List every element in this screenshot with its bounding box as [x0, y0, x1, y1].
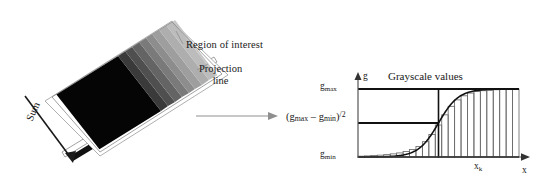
histogram-bar	[448, 106, 454, 157]
histogram-bar	[480, 91, 486, 157]
histogram-bar	[461, 96, 467, 157]
histogram-bar	[467, 93, 473, 157]
xk-subscript: k	[479, 165, 483, 173]
grayscale-values-chart: Grayscale values g x gmax gmin xk (gmax …	[268, 0, 538, 189]
projection-line-label: Projection line	[199, 63, 242, 86]
gmax-tick-label: gmax	[320, 81, 337, 93]
roi-svg	[0, 0, 270, 189]
histogram-bar	[487, 90, 493, 157]
projection-line-label-line1: Projection	[199, 63, 242, 75]
projection-line-label-line2: line	[199, 75, 242, 87]
region-of-interest-diagram: Region of interest Projection line Sum	[0, 0, 270, 189]
histogram-bar	[493, 90, 499, 157]
histogram-bar	[455, 100, 461, 157]
formula-open: (g	[286, 111, 295, 122]
y-axis	[355, 72, 362, 158]
formula-minus: – g	[308, 111, 324, 122]
formula-sub-max: max	[295, 114, 308, 123]
gmax-subscript: max	[325, 85, 337, 93]
xk-tick-label: xk	[474, 161, 482, 173]
histogram-bar	[513, 89, 519, 157]
gmin-tick-label: gmin	[320, 149, 336, 161]
figure-canvas: Region of interest Projection line Sum	[0, 0, 538, 189]
gmin-subscript: min	[325, 153, 336, 161]
formula-divisor: /2	[339, 110, 345, 119]
histogram-bar	[500, 89, 506, 157]
chart-svg	[268, 0, 538, 189]
histogram-bar	[506, 89, 512, 157]
region-of-interest-label: Region of interest	[186, 39, 263, 50]
chart-title: Grayscale values	[388, 70, 463, 82]
y-axis-label: g	[363, 71, 368, 81]
x-axis-label: x	[522, 165, 527, 175]
histogram-bar	[474, 92, 480, 157]
histogram-bar	[442, 115, 448, 157]
half-amplitude-formula-label: (gmax – gmin)/2	[286, 110, 346, 123]
formula-sub-min: min	[324, 114, 336, 123]
